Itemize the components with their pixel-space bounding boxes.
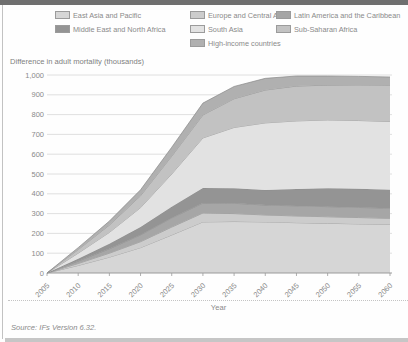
y-tick-label: 800 bbox=[31, 110, 44, 119]
x-tick-label: 2040 bbox=[252, 281, 270, 299]
x-tick-label: 2015 bbox=[96, 281, 114, 299]
y-tick-label: 300 bbox=[31, 209, 44, 218]
y-tick-label: 0 bbox=[40, 269, 44, 278]
stacked-area-chart: 01002003004005006007008009001,0002005201… bbox=[0, 0, 408, 342]
page-bottom-strip bbox=[5, 338, 408, 342]
x-tick-label: 2020 bbox=[127, 281, 145, 299]
x-tick-label: 2005 bbox=[33, 281, 51, 299]
x-tick-label: 2025 bbox=[158, 281, 176, 299]
y-tick-label: 1,000 bbox=[25, 71, 44, 80]
y-tick-label: 700 bbox=[31, 130, 44, 139]
x-axis-title: Year bbox=[47, 303, 390, 312]
x-tick-label: 2045 bbox=[283, 281, 301, 299]
x-tick-label: 2055 bbox=[345, 281, 363, 299]
y-tick-label: 400 bbox=[31, 189, 44, 198]
figure-page: East Asia and PacificMiddle East and Nor… bbox=[0, 0, 408, 342]
source-note: Source: IFs Version 6.32. bbox=[11, 323, 96, 332]
x-tick-label: 2030 bbox=[189, 281, 207, 299]
y-tick-label: 200 bbox=[31, 229, 44, 238]
y-tick-label: 500 bbox=[31, 170, 44, 179]
x-tick-label: 2050 bbox=[314, 281, 332, 299]
y-tick-label: 600 bbox=[31, 150, 44, 159]
x-tick-label: 2035 bbox=[220, 281, 238, 299]
y-tick-label: 100 bbox=[31, 249, 44, 258]
x-tick-label: 2060 bbox=[376, 281, 394, 299]
divider-rule bbox=[8, 300, 408, 301]
y-tick-label: 900 bbox=[31, 90, 44, 99]
x-tick-label: 2010 bbox=[64, 281, 82, 299]
